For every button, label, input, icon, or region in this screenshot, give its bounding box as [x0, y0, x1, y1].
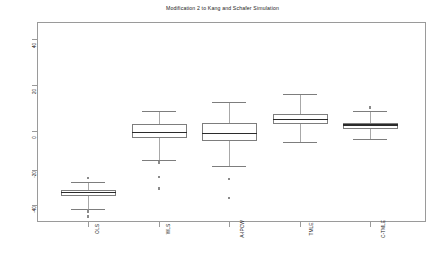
x-tick-label-aipcw: A-IPCW — [240, 220, 245, 238]
cap-lower — [353, 139, 387, 140]
outlier-point — [87, 215, 89, 217]
y-tick-label-minus40: -40 — [32, 203, 37, 217]
whisker-upper — [300, 94, 301, 114]
cap-lower — [283, 142, 317, 143]
y-tick-label-0: 0 — [32, 131, 37, 145]
whisker-lower — [88, 196, 89, 209]
median-line — [273, 119, 328, 121]
y-tick-label-20: 20 — [32, 85, 37, 99]
cap-upper — [283, 94, 317, 95]
outlier-point — [158, 187, 160, 189]
median-line — [343, 124, 398, 126]
whisker-upper — [159, 111, 160, 124]
median-line — [132, 132, 187, 134]
outlier-point — [158, 176, 160, 178]
median-line — [202, 133, 257, 135]
outlier-point — [87, 211, 89, 213]
cap-upper — [353, 111, 387, 112]
whisker-upper — [88, 182, 89, 189]
outlier-point — [228, 197, 230, 199]
cap-upper — [71, 182, 105, 183]
x-tick-mark-aipcw — [229, 222, 230, 227]
whisker-upper — [229, 102, 230, 123]
whisker-lower — [370, 129, 371, 139]
y-tick-label-40: 40 — [32, 39, 37, 53]
cap-upper — [142, 111, 176, 112]
x-tick-label-wls: WLS — [166, 224, 171, 235]
whisker-lower — [229, 141, 230, 165]
x-tick-label-ctmle: C-TMLE — [381, 220, 386, 238]
whisker-upper — [370, 111, 371, 123]
x-tick-label-tmle: TMLE — [309, 222, 314, 235]
outlier-point — [87, 177, 89, 179]
boxplot-figure: Modification 2 to Kang and Schafer Simul… — [0, 0, 445, 258]
median-line — [61, 192, 116, 194]
outlier-point — [228, 178, 230, 180]
x-tick-mark-tmle — [300, 222, 301, 227]
x-tick-label-ols: OLS — [95, 224, 100, 234]
outlier-point — [369, 106, 371, 108]
x-tick-mark-ctmle — [370, 222, 371, 227]
whisker-lower — [300, 124, 301, 142]
y-tick-label-minus20: -20 — [32, 168, 37, 182]
cap-lower — [212, 166, 246, 167]
whisker-lower — [159, 138, 160, 160]
x-tick-mark-wls — [159, 222, 160, 227]
x-tick-mark-ols — [88, 222, 89, 227]
page-title: Modification 2 to Kang and Schafer Simul… — [0, 5, 445, 11]
outlier-point — [158, 161, 160, 163]
cap-upper — [212, 102, 246, 103]
